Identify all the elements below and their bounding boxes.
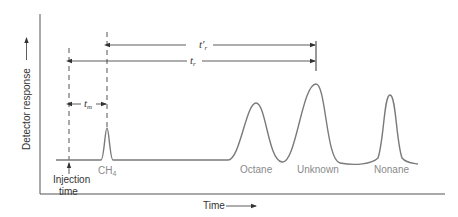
x-axis-label: Time xyxy=(203,200,225,211)
y-axis-label: Detector response xyxy=(21,68,32,150)
injection-label-line2: time xyxy=(59,186,78,197)
peak-label-unknown: Unknown xyxy=(297,164,339,175)
peak-label-octane: Octane xyxy=(240,164,273,175)
peak-label-nonane: Nonane xyxy=(374,164,409,175)
chromatogram-diagram: Detector response Time t′r tr tm Injecti… xyxy=(0,0,458,217)
chromatogram-trace xyxy=(56,84,418,164)
tm-label: tm xyxy=(84,97,92,111)
peak-label-ch4: CH4 xyxy=(98,165,116,177)
injection-label-line1: Injection xyxy=(53,174,90,185)
y-axis-label-group: Detector response xyxy=(21,38,32,150)
tr-label: tr xyxy=(190,54,196,68)
tr-prime-label: t′r xyxy=(199,38,207,52)
